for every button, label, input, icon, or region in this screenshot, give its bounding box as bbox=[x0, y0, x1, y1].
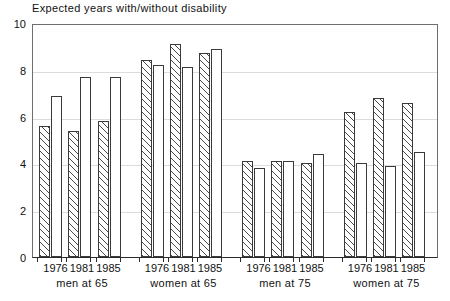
x-year-label: 1985 bbox=[298, 262, 324, 274]
x-year-label: 1981 bbox=[272, 262, 298, 274]
x-year-label: 1985 bbox=[400, 262, 426, 274]
bar bbox=[182, 67, 193, 257]
bars-layer bbox=[33, 25, 437, 257]
bar-chart-figure: Expected years with/without disability 0… bbox=[0, 0, 450, 301]
x-group-label-men-at-65: 197619811985men at 65 bbox=[26, 261, 138, 290]
bar bbox=[373, 98, 384, 257]
bar bbox=[356, 163, 367, 257]
bar bbox=[283, 161, 294, 257]
bar bbox=[211, 49, 222, 257]
bar bbox=[170, 44, 181, 257]
x-year-label: 1976 bbox=[347, 262, 373, 274]
bar bbox=[39, 126, 50, 257]
chart-title: Expected years with/without disability bbox=[32, 2, 227, 14]
x-year-label: 1985 bbox=[197, 262, 223, 274]
bar bbox=[402, 103, 413, 257]
x-year-labels: 197619811985 bbox=[26, 261, 138, 275]
y-tick-label-6: 6 bbox=[20, 112, 26, 123]
y-tick-label-8: 8 bbox=[20, 65, 26, 76]
x-group-name: women at 75 bbox=[331, 276, 443, 290]
x-year-labels: 197619811985 bbox=[128, 261, 240, 275]
x-group-name: men at 75 bbox=[229, 276, 341, 290]
y-axis: 0246810 bbox=[0, 24, 30, 258]
x-group-label-men-at-75: 197619811985men at 75 bbox=[229, 261, 341, 290]
x-year-label: 1976 bbox=[144, 262, 170, 274]
x-year-labels: 197619811985 bbox=[229, 261, 341, 275]
bar bbox=[98, 121, 109, 257]
x-year-label: 1981 bbox=[170, 262, 196, 274]
bar bbox=[414, 152, 425, 257]
x-year-label: 1985 bbox=[95, 262, 121, 274]
x-group-name: men at 65 bbox=[26, 276, 138, 290]
bar bbox=[153, 65, 164, 257]
bar bbox=[242, 161, 253, 257]
x-year-labels: 197619811985 bbox=[331, 261, 443, 275]
bar bbox=[385, 166, 396, 257]
plot-area bbox=[32, 24, 438, 258]
x-group-label-women-at-65: 197619811985women at 65 bbox=[128, 261, 240, 290]
bar bbox=[301, 163, 312, 257]
x-group-name: women at 65 bbox=[128, 276, 240, 290]
y-tick-label-4: 4 bbox=[20, 159, 26, 170]
x-year-label: 1981 bbox=[69, 262, 95, 274]
y-tick-label-2: 2 bbox=[20, 206, 26, 217]
bar bbox=[199, 53, 210, 257]
bar bbox=[51, 96, 62, 257]
bar bbox=[313, 154, 324, 257]
bar bbox=[271, 161, 282, 257]
bar bbox=[110, 77, 121, 257]
y-tick-label-10: 10 bbox=[14, 19, 26, 30]
bar bbox=[68, 131, 79, 257]
x-year-label: 1981 bbox=[373, 262, 399, 274]
x-group-label-women-at-75: 197619811985women at 75 bbox=[331, 261, 443, 290]
x-year-label: 1976 bbox=[42, 262, 68, 274]
bar bbox=[344, 112, 355, 257]
bar bbox=[141, 60, 152, 257]
x-year-label: 1976 bbox=[245, 262, 271, 274]
bar bbox=[80, 77, 91, 257]
bar bbox=[254, 168, 265, 257]
x-axis-labels: 197619811985men at 65197619811985women a… bbox=[0, 261, 450, 301]
